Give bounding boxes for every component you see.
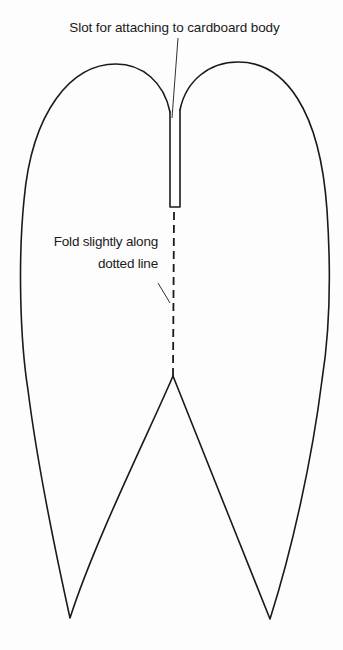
slot-leader-line — [172, 38, 178, 118]
attachment-slot — [170, 110, 180, 207]
fold-label-line2: dotted line — [48, 257, 158, 271]
slot-label: Slot for attaching to cardboard body — [68, 21, 281, 35]
right-wing-outline — [173, 62, 329, 619]
fold-leader-line — [158, 283, 170, 303]
fold-label-line1: Fold slightly along — [48, 235, 158, 249]
fold-dashed-line — [173, 212, 174, 376]
left-wing-outline — [21, 64, 173, 618]
wing-template-diagram — [0, 0, 343, 650]
